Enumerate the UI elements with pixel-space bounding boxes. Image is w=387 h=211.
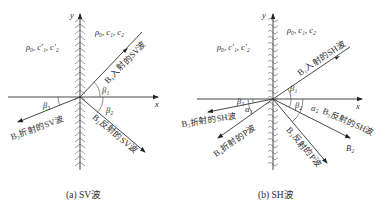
angle-beta3-b: β₃ xyxy=(236,96,244,106)
reflected-label-a: B₂反射的SV波 xyxy=(91,112,140,155)
angle-arc-beta2-a xyxy=(97,97,103,113)
angle-alpha1-b: α₁ xyxy=(245,104,252,114)
medium-right-b: ρ₀, c₁, c₂ xyxy=(286,25,316,35)
b2-label-b: B₂ xyxy=(346,143,354,153)
incident-ray-a xyxy=(80,32,142,97)
caption-b: (b) SH波 xyxy=(258,189,294,201)
refracted-sh-label-b: B₃折射的SH波 xyxy=(181,110,237,129)
y-axis-label-b: y xyxy=(261,10,266,20)
angle-beta1-a: β₁ xyxy=(101,85,109,95)
wave-diagram: y x ρ₀, c′₁, c′₂ ρ₀, c₁, c₂ B₁入射的SV波 B₂反… xyxy=(0,0,387,211)
x-axis-label-a: x xyxy=(154,99,159,109)
medium-right-a: ρ₀, c₁, c₂ xyxy=(94,27,124,37)
medium-left-a: ρ₀, c′₁, c′₂ xyxy=(25,42,59,52)
caption-a: (a) SV波 xyxy=(66,189,101,201)
incident-label-b: B₁入射的SH波 xyxy=(296,38,348,77)
angle-beta2-b: β₂ xyxy=(294,100,302,110)
refracted-label-a: B₃折射的SV波 xyxy=(9,114,65,142)
x-axis-label-b: x xyxy=(355,101,360,111)
refracted-p-label-b: B₄折射的P波 xyxy=(211,122,257,159)
reflected-sh-label-b: B₂反射的SH波 xyxy=(321,106,376,138)
panel-a-sv-wave: y x ρ₀, c′₁, c′₂ ρ₀, c₁, c₂ B₁入射的SV波 B₂反… xyxy=(8,10,159,201)
angle-alpha2-b: α₂ xyxy=(311,103,318,113)
angle-beta1-b: β₁ xyxy=(289,83,297,93)
angle-beta2-a: β₂ xyxy=(105,105,113,115)
panel-b-sh-wave: y x ρ₀, c′₁, c′₂ ρ₀, c₁, c₂ B₁入射的SH波 B₂反… xyxy=(181,10,376,201)
medium-left-b: ρ₀, c′₁, c′₂ xyxy=(216,42,250,52)
angle-arc-beta2-b xyxy=(289,99,291,108)
angle-beta3-a: β₃ xyxy=(42,100,50,110)
angle-arc-beta3-a xyxy=(58,97,60,106)
angle-arc-beta1-a xyxy=(94,82,100,97)
reflected-p-label-b: B₃反射的P波 xyxy=(284,125,323,169)
y-axis-label-a: y xyxy=(69,10,74,20)
incident-label-a: B₁入射的SV波 xyxy=(102,39,148,86)
incident-ray-b xyxy=(273,47,350,99)
